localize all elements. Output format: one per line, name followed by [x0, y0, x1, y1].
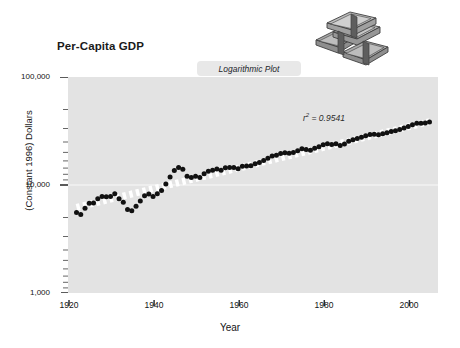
data-point [270, 153, 275, 158]
data-point [231, 165, 236, 170]
data-point [236, 166, 241, 171]
data-point [172, 168, 177, 173]
data-point [87, 201, 92, 206]
money-stack-icon [310, 8, 392, 70]
data-point [189, 175, 194, 180]
data-point [214, 167, 219, 172]
data-point [138, 198, 143, 203]
chart-figure: Per-Capita GDP Logarithmic Plot [0, 0, 460, 348]
data-point-markers [74, 120, 432, 218]
data-point [384, 130, 389, 135]
data-point [325, 141, 330, 146]
data-point [278, 151, 283, 156]
data-point [321, 142, 326, 147]
data-point [121, 200, 126, 205]
plot-area [68, 77, 438, 293]
x-axis-ticks [68, 293, 440, 300]
data-point [83, 206, 88, 211]
data-point [304, 147, 309, 152]
data-point [410, 122, 415, 127]
data-point [414, 121, 419, 126]
data-point [223, 165, 228, 170]
data-point [210, 168, 215, 173]
data-point [125, 207, 130, 212]
data-point [112, 191, 117, 196]
data-point [397, 127, 402, 132]
data-point [108, 194, 113, 199]
y-axis-title: (Constant 1996) Dollars [23, 71, 34, 251]
data-point [291, 150, 296, 155]
data-point [95, 196, 100, 201]
x-tick-label-1940: 1940 [145, 301, 164, 310]
y-axis-ticks [52, 77, 68, 293]
data-point [338, 143, 343, 148]
data-point [78, 212, 83, 217]
data-point [240, 164, 245, 169]
r-value: = 0.9541 [309, 113, 345, 123]
data-point [423, 120, 428, 125]
data-point [180, 167, 185, 172]
x-tick-label-2000: 2000 [400, 301, 419, 310]
data-point [227, 165, 232, 170]
page-title: Per-Capita GDP [57, 40, 144, 52]
data-point [261, 158, 266, 163]
data-point [316, 144, 321, 149]
data-point [185, 174, 190, 179]
x-tick-label-1960: 1960 [230, 301, 249, 310]
data-point [355, 136, 360, 141]
data-point [155, 191, 160, 196]
data-point [163, 181, 168, 186]
data-point [401, 125, 406, 130]
data-point [312, 146, 317, 151]
data-point [146, 192, 151, 197]
x-tick-label-1980: 1980 [315, 301, 334, 310]
data-point [244, 163, 249, 168]
plot-type-badge-label: Logarithmic Plot [219, 64, 280, 74]
data-point [372, 132, 377, 137]
data-point [248, 163, 253, 168]
data-point [257, 160, 262, 165]
data-point [393, 128, 398, 133]
x-tick-label-1920: 1920 [60, 301, 79, 310]
data-point [295, 148, 300, 153]
r-squared-annotation: r2 = 0.9541 [303, 112, 345, 123]
data-point [287, 151, 292, 156]
data-point [380, 131, 385, 136]
data-point [389, 129, 394, 134]
data-point [265, 156, 270, 161]
data-point [134, 204, 139, 209]
data-point [104, 194, 109, 199]
data-point [376, 132, 381, 137]
data-point [427, 120, 432, 125]
data-point [151, 194, 156, 199]
data-point [346, 139, 351, 144]
data-point [117, 196, 122, 201]
data-point [142, 193, 147, 198]
data-point [308, 148, 313, 153]
data-point [253, 161, 258, 166]
data-point [74, 210, 79, 215]
data-point [329, 142, 334, 147]
data-point [406, 124, 411, 129]
data-point [333, 141, 338, 146]
data-point [282, 150, 287, 155]
data-point [197, 175, 202, 180]
data-point [342, 141, 347, 146]
data-point [91, 201, 96, 206]
x-axis-title: Year [0, 322, 460, 333]
data-point [350, 137, 355, 142]
y-tick-label-1000: 1,000 [0, 289, 50, 297]
data-point [176, 165, 181, 170]
data-point [274, 153, 279, 158]
data-point [299, 146, 304, 151]
data-point [219, 168, 224, 173]
data-point [100, 194, 105, 199]
data-point [367, 132, 372, 137]
data-point [159, 188, 164, 193]
data-point [129, 208, 134, 213]
data-point [363, 133, 368, 138]
data-point [193, 174, 198, 179]
plot-canvas [68, 77, 438, 293]
plot-type-badge: Logarithmic Plot [197, 61, 301, 76]
data-point [418, 121, 423, 126]
